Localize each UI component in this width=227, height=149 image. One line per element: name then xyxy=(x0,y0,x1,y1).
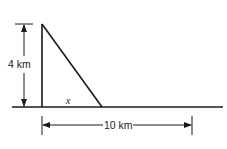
triangle-hypotenuse xyxy=(42,24,102,107)
distance-label: 10 km xyxy=(104,119,133,131)
variable-x-label: x xyxy=(65,95,71,106)
height-label: 4 km xyxy=(8,58,31,70)
diagram-canvas: 4 km x 10 km xyxy=(0,0,227,149)
